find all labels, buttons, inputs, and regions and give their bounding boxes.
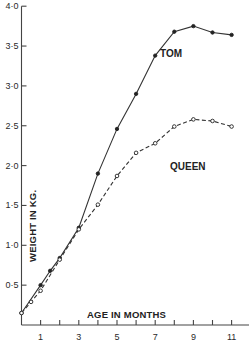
data-point-queen: [115, 174, 119, 178]
data-point-tom: [173, 30, 176, 33]
data-point-queen: [29, 300, 33, 304]
data-point-tom: [48, 269, 51, 272]
series-label-queen: QUEEN: [170, 161, 206, 172]
y-tick-label: 0·5: [5, 280, 18, 290]
y-tick-label: 1·5: [5, 200, 18, 210]
data-point-queen: [20, 311, 24, 315]
x-axis: 1357911: [22, 320, 250, 342]
x-tick-label: 5: [114, 332, 119, 342]
x-tick-label: 3: [76, 332, 81, 342]
data-point-queen: [173, 125, 177, 129]
x-tick-label: 9: [191, 332, 196, 342]
y-axis: 0·51·01·52·02·53·03·54·0: [5, 1, 26, 325]
x-tick-label: 7: [153, 332, 158, 342]
series-line-queen: [22, 119, 232, 313]
data-point-queen: [77, 228, 81, 232]
y-tick-label: 3·0: [5, 81, 18, 91]
data-point-queen: [192, 118, 196, 122]
y-tick-label: 4·0: [5, 1, 18, 11]
data-point-queen: [153, 141, 157, 145]
data-point-tom: [192, 24, 195, 27]
x-axis-title: AGE IN MONTHS: [87, 309, 166, 320]
y-tick-label: 2·5: [5, 121, 18, 131]
data-point-queen: [211, 119, 215, 123]
weight-growth-chart: 0·51·01·52·02·53·03·54·0 1357911 WEIGHT …: [0, 0, 249, 346]
y-tick-label: 1·0: [5, 240, 18, 250]
y-axis-title: WEIGHT IN KG.: [27, 190, 38, 262]
data-point-tom: [39, 283, 42, 286]
data-point-queen: [134, 151, 138, 155]
data-point-tom: [230, 33, 233, 36]
data-point-queen: [230, 125, 234, 129]
data-point-queen: [58, 258, 62, 262]
y-tick-label: 2·0: [5, 161, 18, 171]
x-tick-label: 11: [227, 332, 236, 342]
data-point-tom: [211, 31, 214, 34]
data-point-tom: [115, 127, 118, 130]
data-point-tom: [96, 172, 99, 175]
data-point-tom: [154, 54, 157, 57]
data-point-tom: [134, 92, 137, 95]
y-tick-label: 3·5: [5, 41, 18, 51]
data-point-queen: [96, 203, 100, 207]
data-point-queen: [39, 289, 43, 293]
x-tick-label: 1: [38, 332, 43, 342]
series-label-tom: TOM: [160, 48, 182, 59]
